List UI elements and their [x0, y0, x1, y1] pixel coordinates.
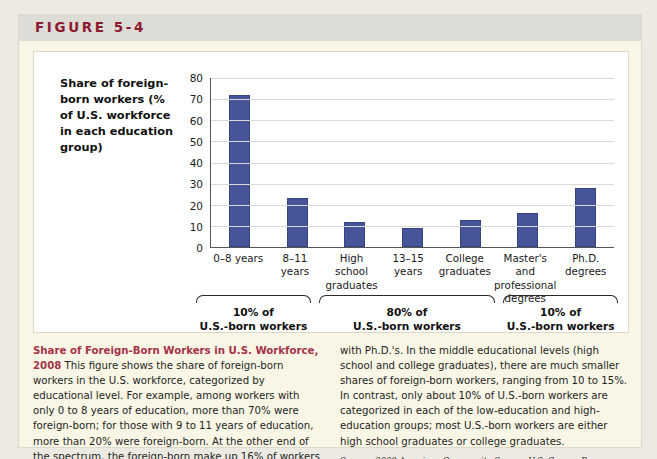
figure-box: FIGURE 5-4 Share of foreign-born workers… [18, 14, 642, 448]
caption-column-left: Share of Foreign-Born Workers in U.S. Wo… [33, 343, 322, 459]
bar [517, 213, 538, 247]
caption-left-body: This figure shows the share of foreign-b… [33, 360, 320, 459]
bracket-group-label: U.S.-born workers [192, 320, 315, 334]
plot-area-wrapper: 01020304050607080 [184, 78, 614, 248]
y-axis-tick: 0 [196, 242, 203, 254]
y-axis-tick: 10 [190, 221, 203, 233]
y-axis-tick: 20 [190, 200, 203, 212]
bracket-percent-label: 10% of [499, 306, 622, 320]
figure-page: FIGURE 5-4 Share of foreign-born workers… [0, 0, 657, 459]
gridline [211, 99, 614, 100]
caption-column-right: with Ph.D.'s. In the middle educational … [340, 343, 629, 459]
gridline [211, 184, 614, 185]
y-axis-tick: 50 [190, 136, 203, 148]
y-axis-tick: 40 [190, 157, 203, 169]
bracket-group: 80% ofU.S.-born workers [315, 295, 499, 334]
gridline [211, 141, 614, 142]
source-line: Source: 2008 American Community Survey, … [340, 456, 629, 459]
y-axis-title: Share of foreign-born workers (% of U.S.… [60, 76, 178, 156]
bracket-group-label: U.S.-born workers [499, 320, 622, 334]
bracket-line [196, 295, 311, 303]
bar [575, 188, 596, 247]
y-axis-tick: 60 [190, 115, 203, 127]
chart-panel: Share of foreign-born workers (% of U.S.… [33, 51, 629, 333]
bracket-percent-label: 10% of [192, 306, 315, 320]
bracket-group: 10% ofU.S.-born workers [499, 295, 622, 334]
figure-number-label: FIGURE 5-4 [35, 19, 146, 35]
plot-area [210, 78, 614, 248]
bar [402, 228, 423, 247]
gridline [211, 163, 614, 164]
bar [460, 220, 481, 247]
bar [229, 95, 250, 247]
gridline [211, 226, 614, 227]
caption-right-body: with Ph.D.'s. In the middle educational … [340, 343, 629, 449]
gridline [211, 120, 614, 121]
y-axis-tick: 70 [190, 93, 203, 105]
bracket-annotations: 10% ofU.S.-born workers80% ofU.S.-born w… [192, 295, 622, 334]
y-axis-tick: 80 [190, 72, 203, 84]
y-axis-tick: 30 [190, 178, 203, 190]
bracket-group: 10% ofU.S.-born workers [192, 295, 315, 334]
y-axis-tick-labels: 01020304050607080 [184, 78, 206, 248]
figure-caption: Share of Foreign-Born Workers in U.S. Wo… [33, 343, 629, 459]
gridline [211, 78, 614, 79]
gridline [211, 205, 614, 206]
caption-left-text: Share of Foreign-Born Workers in U.S. Wo… [33, 343, 322, 459]
bracket-percent-label: 80% of [315, 306, 499, 320]
bracket-line [319, 295, 495, 303]
bracket-line [503, 295, 618, 303]
bracket-group-label: U.S.-born workers [315, 320, 499, 334]
